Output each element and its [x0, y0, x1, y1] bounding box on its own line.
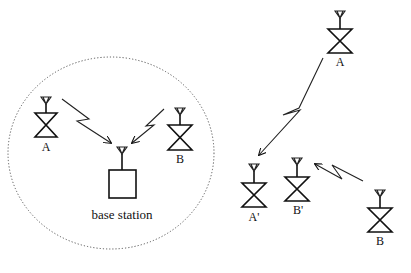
station-label-a: A: [336, 55, 345, 69]
link-a-to-a-prime: [259, 58, 323, 155]
link-b-to-b-prime: [315, 164, 363, 181]
antenna-icon: [175, 108, 185, 125]
base-station: base station: [91, 147, 153, 222]
antenna-icon: [335, 11, 345, 29]
antenna-icon: [249, 164, 259, 183]
antenna-icon: [292, 158, 302, 177]
base-station-label: base station: [91, 207, 153, 222]
mobile-station-b-left: B: [168, 108, 192, 166]
network-diagram: A B base station: [0, 0, 411, 273]
antenna-icon: [117, 147, 127, 170]
left-panel: A B base station: [8, 57, 214, 249]
bowtie-station-icon: [35, 113, 57, 137]
station-label-b-prime: B': [293, 203, 303, 217]
station-label-a-prime: A': [249, 210, 260, 224]
mobile-station-b-right: B: [368, 190, 392, 248]
right-panel: A A' B' B: [242, 11, 392, 248]
bowtie-station-icon: [328, 29, 352, 53]
station-label-a: A: [42, 140, 51, 154]
base-station-box-icon: [109, 170, 136, 198]
antenna-icon: [375, 190, 385, 208]
antenna-icon: [41, 97, 51, 113]
station-label-b: B: [376, 234, 384, 248]
bowtie-station-icon: [168, 125, 192, 150]
mobile-station-a-right: A: [328, 11, 352, 69]
mobile-station-a-prime: A': [242, 164, 266, 224]
station-label-b: B: [176, 152, 184, 166]
bowtie-station-icon: [285, 177, 309, 201]
mobile-station-b-prime: B': [285, 158, 309, 217]
bowtie-station-icon: [242, 183, 266, 207]
mobile-station-a-left: A: [35, 97, 57, 154]
bowtie-station-icon: [368, 208, 392, 232]
link-b-to-base-station: [132, 109, 164, 143]
link-a-to-base-station: [62, 99, 111, 143]
